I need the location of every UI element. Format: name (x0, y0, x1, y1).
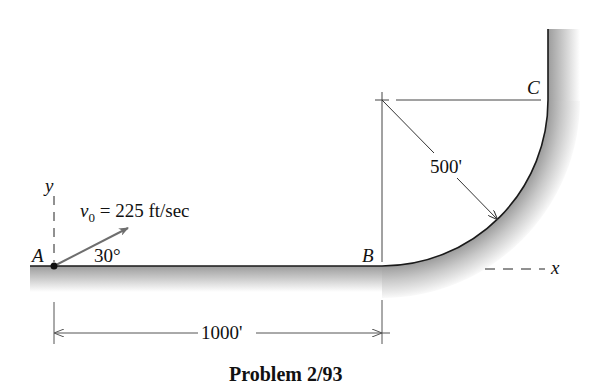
label-horizontal-distance: 1000' (201, 322, 242, 343)
velocity-value: = 225 ft/sec (95, 200, 190, 221)
label-velocity: v0 = 225 ft/sec (80, 200, 190, 225)
diagram-canvas: y x A B C v0 = 225 ft/sec 30° 500' 1000'… (0, 0, 599, 390)
track-surface (30, 29, 548, 266)
radius-line-upper (382, 100, 434, 153)
label-y-axis: y (43, 175, 54, 196)
figure-caption: Problem 2/93 (229, 363, 343, 385)
radius-line-lower (457, 178, 497, 219)
label-point-b: B (362, 245, 374, 266)
point-a-dot (51, 263, 58, 270)
label-point-a: A (30, 245, 44, 266)
label-angle: 30° (94, 245, 121, 266)
label-radius: 500' (430, 156, 462, 177)
label-point-c: C (527, 77, 540, 98)
label-x-axis: x (550, 257, 560, 278)
